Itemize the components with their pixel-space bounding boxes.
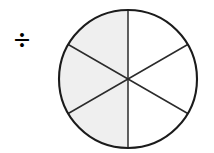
unshaded-sector-group (128, 10, 197, 148)
fraction-circle-container (0, 0, 214, 153)
fraction-circle-figure: ÷ (0, 0, 214, 153)
shaded-sector-group (59, 10, 128, 148)
fraction-circle-svg (0, 0, 214, 153)
